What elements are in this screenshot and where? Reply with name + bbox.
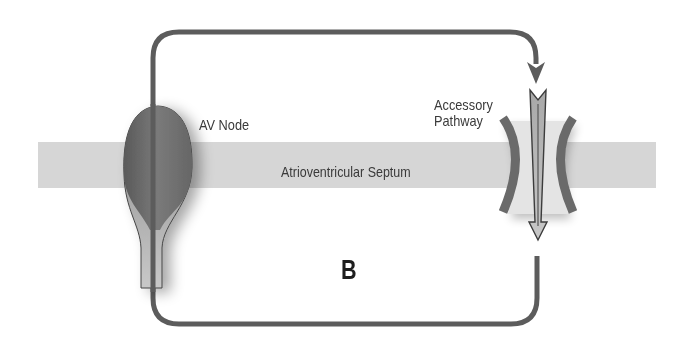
- accessory-label-line1: Accessory: [434, 97, 493, 113]
- panel-letter: B: [341, 255, 357, 286]
- septum-label: Atrioventricular Septum: [281, 164, 411, 180]
- accessory-label-line2: Pathway: [434, 113, 493, 129]
- av-node: [124, 106, 192, 288]
- reentry-loop-top: [153, 32, 536, 106]
- av-node-label: AV Node: [199, 117, 249, 133]
- accessory-pathway-label: Accessory Pathway: [434, 97, 493, 129]
- arrowhead-top-icon: [527, 62, 545, 84]
